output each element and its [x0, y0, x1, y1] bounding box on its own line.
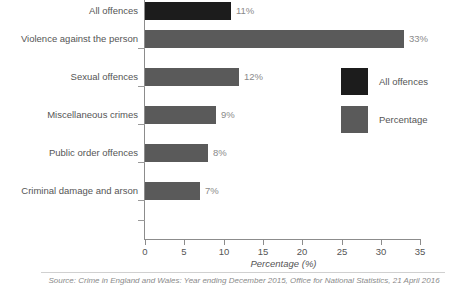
- x-axis-tick: [263, 240, 264, 245]
- bar-chart: All offences 11% Violence against the pe…: [0, 0, 451, 295]
- y-axis-tick: [138, 162, 145, 163]
- y-axis-tick: [138, 124, 145, 125]
- category-label: Public order offences: [0, 143, 138, 163]
- legend-label: All offences: [379, 76, 428, 88]
- legend-label: Percentage: [379, 114, 428, 126]
- x-axis-tick: [342, 240, 343, 245]
- x-axis-tick: [420, 240, 421, 245]
- x-axis-tick: [145, 240, 146, 245]
- chart-row: Public order offences 8%: [0, 143, 451, 181]
- x-axis-tick: [381, 240, 382, 245]
- legend-swatch-icon: [341, 106, 368, 133]
- bar-value-label: 8%: [213, 143, 227, 163]
- bar-sexual-offences[interactable]: [145, 68, 239, 86]
- category-label: Sexual offences: [0, 67, 138, 87]
- chart-legend: All offences Percentage: [341, 68, 449, 144]
- x-axis-tick-label: 25: [327, 246, 357, 258]
- x-axis-line: [144, 239, 421, 240]
- x-axis-tick-label: 0: [130, 246, 160, 258]
- x-axis-title: Percentage (%): [145, 258, 422, 269]
- chart-row: Criminal damage and arson 7%: [0, 181, 451, 219]
- y-axis-tick: [138, 86, 145, 87]
- x-axis-tick: [302, 240, 303, 245]
- bar-value-label: 12%: [244, 67, 263, 87]
- bar-value-label: 11%: [236, 1, 254, 21]
- bar-criminal-damage-and-arson[interactable]: [145, 182, 200, 200]
- category-label: All offences: [0, 1, 138, 21]
- bar-value-label: 33%: [409, 29, 428, 49]
- x-axis-tick-label: 15: [248, 246, 278, 258]
- y-axis-tick: [138, 48, 145, 49]
- y-axis-tick: [138, 220, 145, 221]
- x-axis-tick-label: 35: [405, 246, 435, 258]
- bar-all-offences[interactable]: [145, 2, 231, 20]
- bar-value-label: 7%: [205, 181, 219, 201]
- x-axis-tick-label: 5: [169, 246, 199, 258]
- y-axis-tick: [138, 200, 145, 201]
- category-label: Miscellaneous crimes: [0, 105, 138, 125]
- x-axis-tick-label: 10: [209, 246, 239, 258]
- x-axis-tick-label: 20: [287, 246, 317, 258]
- bar-public-order-offences[interactable]: [145, 144, 208, 162]
- source-note: Source: Crime in England and Wales: Year…: [41, 275, 447, 287]
- source-divider: [41, 272, 445, 273]
- category-label: Violence against the person: [0, 29, 138, 49]
- x-axis-tick: [184, 240, 185, 245]
- bar-value-label: 9%: [221, 105, 235, 125]
- legend-swatch-icon: [341, 68, 368, 95]
- x-axis-tick-label: 30: [366, 246, 396, 258]
- legend-item-percentage[interactable]: Percentage: [341, 106, 449, 144]
- bar-violence-against-the-person[interactable]: [145, 30, 404, 48]
- legend-item-all-offences[interactable]: All offences: [341, 68, 449, 106]
- bar-miscellaneous-crimes[interactable]: [145, 106, 216, 124]
- chart-row: Violence against the person 33%: [0, 29, 451, 67]
- x-axis-tick: [224, 240, 225, 245]
- category-label: Criminal damage and arson: [0, 181, 138, 201]
